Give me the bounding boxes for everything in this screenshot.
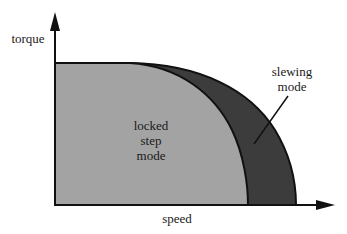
slewing-mode-label: slewing mode bbox=[262, 64, 322, 94]
x-axis-arrow-icon bbox=[316, 200, 335, 210]
label-line: step bbox=[120, 133, 182, 148]
locked-step-mode-label: locked step mode bbox=[120, 118, 182, 163]
torque-speed-diagram bbox=[0, 0, 347, 234]
label-line: locked bbox=[120, 118, 182, 133]
label-line: mode bbox=[262, 79, 322, 94]
y-axis-label: torque bbox=[8, 31, 48, 46]
x-axis-label: speed bbox=[152, 211, 202, 226]
y-axis-arrow-icon bbox=[50, 12, 60, 31]
label-line: slewing bbox=[262, 64, 322, 79]
label-line: mode bbox=[120, 148, 182, 163]
